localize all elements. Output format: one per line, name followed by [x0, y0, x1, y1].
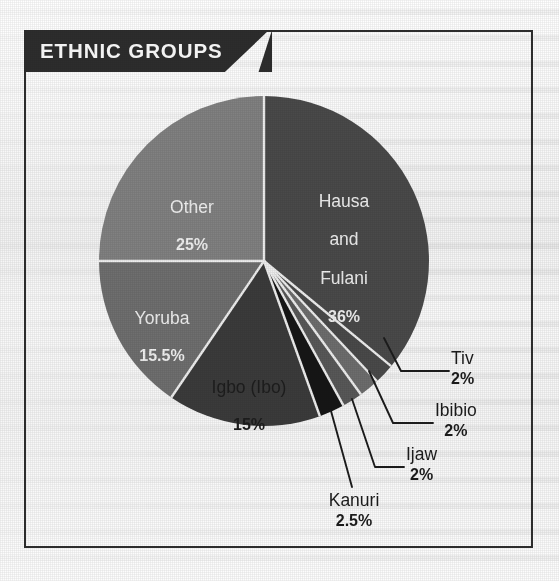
leader-line-ijaw: [352, 399, 404, 467]
leader-line-kanuri: [331, 411, 352, 487]
page-background: Hausa and Fulani 36% Other 25% Yoruba 15…: [0, 0, 559, 581]
pie-chart: [0, 0, 559, 581]
pie-slice-other[interactable]: [99, 96, 264, 261]
